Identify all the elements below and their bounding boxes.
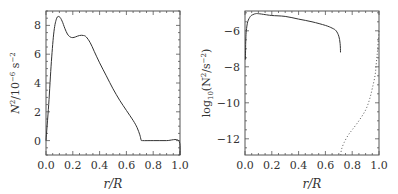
right-y-axis-title: log10(N2/s−2) (200, 49, 215, 117)
right-x-axis-title: r/R (303, 177, 322, 191)
x-tick-label: 0.2 (263, 159, 281, 172)
left-panel: 0.00.20.40.60.81.002468 r/R N2/10−6 s−2 (9, 11, 189, 191)
x-tick-label: 0.6 (317, 159, 335, 172)
left-n2-curve (46, 16, 180, 155)
right-radiative-curve (245, 14, 340, 60)
left-y-axis-title: N2/10−6 s−2 (9, 52, 22, 115)
right-tick-labels: 0.00.20.40.60.81.0−6−8−10−12 (217, 25, 388, 172)
y-tick-label: −10 (217, 97, 240, 110)
y-tick-label: 8 (34, 19, 41, 32)
right-axis-ticks (245, 11, 379, 155)
x-tick-label: 0.4 (290, 159, 308, 172)
y-tick-label: −8 (224, 61, 240, 74)
y-tick-label: 2 (34, 106, 41, 119)
y-tick-label: −6 (224, 25, 240, 38)
x-tick-label: 0.2 (64, 159, 82, 172)
right-panel: 0.00.20.40.60.81.0−6−8−10−12 r/R log10(N… (200, 11, 388, 191)
x-tick-label: 0.4 (91, 159, 109, 172)
y-tick-label: 6 (34, 48, 41, 61)
figure: 0.00.20.40.60.81.002468 r/R N2/10−6 s−2 … (0, 0, 398, 194)
y-tick-label: 0 (34, 135, 41, 148)
x-tick-label: 0.0 (37, 159, 55, 172)
right-convective-curve (341, 31, 379, 155)
x-tick-label: 0.8 (343, 159, 361, 172)
right-plot-frame (245, 11, 379, 155)
y-tick-label: 4 (34, 77, 41, 90)
x-tick-label: 0.6 (118, 159, 136, 172)
left-x-axis-title: r/R (104, 177, 123, 191)
y-tick-label: −12 (217, 133, 240, 146)
x-tick-label: 0.0 (236, 159, 254, 172)
x-tick-label: 1.0 (370, 159, 388, 172)
x-tick-label: 0.8 (144, 159, 162, 172)
left-tick-labels: 0.00.20.40.60.81.002468 (34, 19, 189, 172)
x-tick-label: 1.0 (171, 159, 189, 172)
